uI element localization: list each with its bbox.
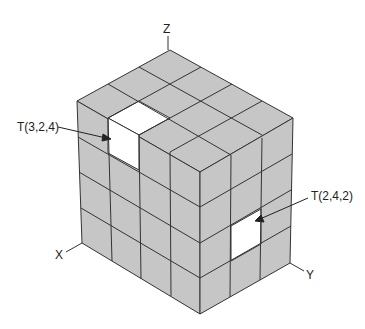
x-axis-line xyxy=(66,243,82,252)
y-axis-line xyxy=(290,263,304,271)
annotation-t242: T(2,4,2) xyxy=(311,189,353,203)
z-axis-label: Z xyxy=(163,22,170,36)
y-axis-label: Y xyxy=(306,268,314,282)
x-axis-label: X xyxy=(55,248,63,262)
cube-diagram: Z X Y xyxy=(0,0,365,329)
annotation-t324: T(3,2,4) xyxy=(17,120,59,134)
